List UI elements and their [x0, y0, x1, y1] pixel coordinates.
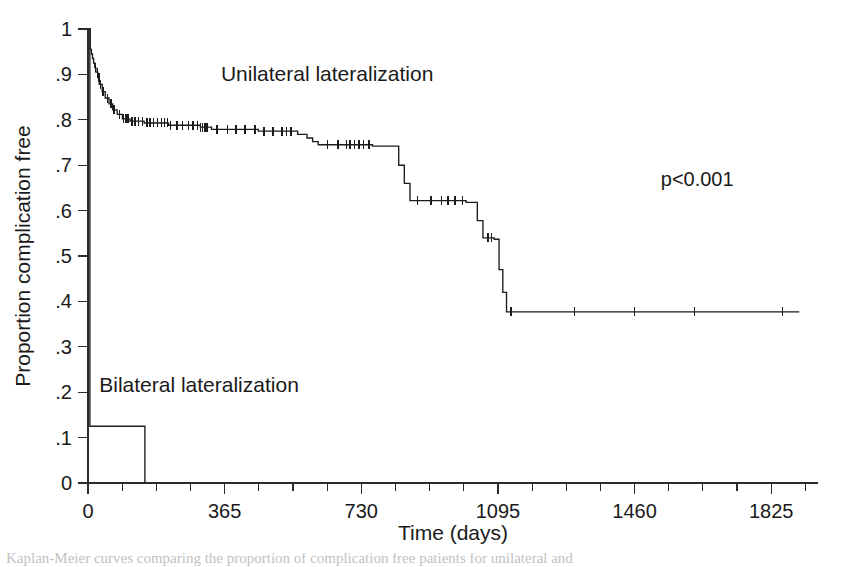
y-tick-label: .3: [55, 336, 72, 358]
figure-caption-text: Kaplan-Meier curves comparing the propor…: [6, 553, 573, 567]
y-tick-label: .5: [55, 245, 72, 267]
y-tick-label: 1: [61, 18, 72, 40]
series-layer: [88, 29, 799, 483]
x-minor-tick-group: [88, 483, 805, 491]
x-ticklabel-group: 0365730109514601825: [82, 500, 793, 522]
y-tick-label: .8: [55, 109, 72, 131]
x-tick-label: 365: [208, 500, 241, 522]
x-axis-title: Time (days): [398, 521, 508, 544]
survival-curve: [88, 29, 145, 483]
bilateral-label-annotation: Bilateral lateralization: [99, 373, 299, 396]
x-tick-label: 1095: [476, 500, 521, 522]
y-tick-label: .6: [55, 200, 72, 222]
y-tick-group: [78, 29, 88, 483]
kaplan-meier-figure: 0.1.2.3.4.5.6.7.8.91 Proportion complica…: [0, 0, 845, 567]
censor-marks-layer: [95, 63, 782, 316]
y-axis-title: Proportion complication free: [11, 125, 34, 386]
y-tick-label: .4: [55, 290, 72, 312]
y-tick-label: .7: [55, 154, 72, 176]
figure-caption: Kaplan-Meier curves comparing the propor…: [0, 553, 845, 567]
y-tick-label: .9: [55, 63, 72, 85]
x-tick-label: 0: [82, 500, 93, 522]
x-tick-label: 730: [345, 500, 378, 522]
p-value-annotation: p<0.001: [661, 168, 734, 190]
x-tick-label: 1460: [612, 500, 657, 522]
x-tick-label: 1825: [749, 500, 794, 522]
unilateral-label-annotation: Unilateral lateralization: [221, 62, 433, 85]
y-tick-label: 0: [61, 472, 72, 494]
y-axis: 0.1.2.3.4.5.6.7.8.91 Proportion complica…: [11, 18, 88, 494]
survival-plot-svg: 0.1.2.3.4.5.6.7.8.91 Proportion complica…: [0, 0, 845, 567]
y-tick-label: .1: [55, 427, 72, 449]
y-ticklabel-group: 0.1.2.3.4.5.6.7.8.91: [55, 18, 72, 494]
x-axis: 0365730109514601825 Time (days): [82, 483, 818, 544]
y-tick-label: .2: [55, 381, 72, 403]
annotation-layer: p<0.001Unilateral lateralizationBilatera…: [99, 62, 733, 396]
